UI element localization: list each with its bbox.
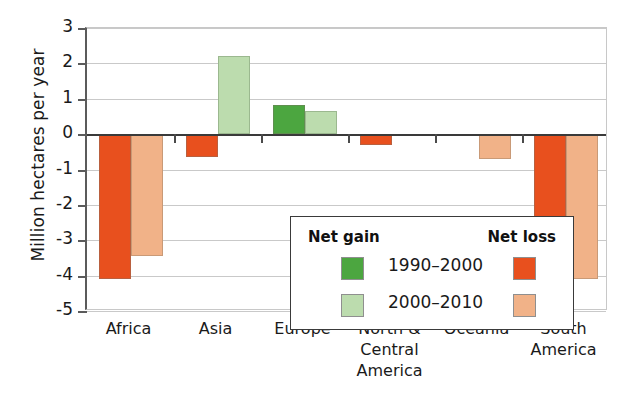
y-axis-tick-label: 1 <box>27 87 73 107</box>
y-axis-tick-label: -2 <box>27 193 73 213</box>
x-axis-category-label: Asia <box>172 318 259 339</box>
y-axis-tick-label: 3 <box>27 16 73 36</box>
y-axis-title: Million hectares per year <box>28 5 48 305</box>
gridline <box>87 170 606 171</box>
gridline <box>87 28 606 29</box>
x-axis-tick <box>174 134 176 143</box>
bar <box>218 56 250 135</box>
x-axis-label-line: Asia <box>172 318 259 339</box>
legend-swatch-net-loss <box>513 294 536 317</box>
x-axis-category-label: Africa <box>85 318 172 339</box>
bar <box>305 111 337 134</box>
y-axis-tick <box>78 28 87 30</box>
x-axis-label-line: America <box>346 360 433 381</box>
legend: Net gain Net loss 1990–20002000–2010 <box>290 216 574 330</box>
gridline <box>87 63 606 64</box>
y-axis-tick-label: -5 <box>27 299 73 319</box>
y-axis-tick <box>78 205 87 207</box>
gridline <box>87 205 606 206</box>
x-axis-tick <box>348 134 350 143</box>
y-axis-tick-label: -3 <box>27 228 73 248</box>
y-axis-tick <box>78 240 87 242</box>
x-axis-label-line: Africa <box>85 318 172 339</box>
y-axis-tick <box>78 63 87 65</box>
bar-chart: Million hectares per year 3210-1-2-3-4-5… <box>0 0 624 401</box>
bar <box>273 105 305 134</box>
y-axis-tick-label: 2 <box>27 51 73 71</box>
gridline <box>87 99 606 100</box>
bar <box>99 134 131 279</box>
bar <box>479 134 511 159</box>
plot-area: Net gain Net loss 1990–20002000–2010 <box>85 27 607 310</box>
y-axis-tick <box>78 276 87 278</box>
y-axis-tick <box>78 99 87 101</box>
legend-swatch-net-gain <box>341 257 364 280</box>
x-axis-label-line: Central <box>346 339 433 360</box>
legend-swatch-net-gain <box>341 294 364 317</box>
zero-line <box>87 134 606 136</box>
y-axis-tick-label: -4 <box>27 264 73 284</box>
y-axis-tick-label: -1 <box>27 158 73 178</box>
bar <box>186 134 218 157</box>
x-axis-label-line: America <box>520 339 607 360</box>
legend-header-net-loss: Net loss <box>488 228 556 246</box>
legend-header-net-gain: Net gain <box>308 228 380 246</box>
legend-period-label: 2000–2010 <box>388 292 483 312</box>
y-axis-tick <box>78 311 87 313</box>
bar <box>131 134 163 256</box>
legend-swatch-net-loss <box>513 257 536 280</box>
legend-period-label: 1990–2000 <box>388 255 483 275</box>
x-axis-tick <box>522 134 524 143</box>
x-axis-tick <box>261 134 263 143</box>
y-axis-tick <box>78 170 87 172</box>
x-axis-tick <box>435 134 437 143</box>
y-axis-tick-label: 0 <box>27 122 73 142</box>
y-axis-tick <box>78 134 87 136</box>
